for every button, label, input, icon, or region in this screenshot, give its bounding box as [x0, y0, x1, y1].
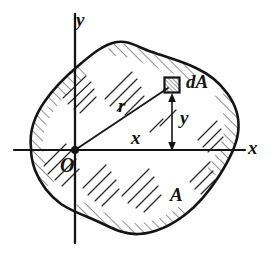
area-label: A — [170, 185, 183, 204]
dA-element-square — [165, 78, 180, 93]
origin-label: O — [60, 155, 74, 175]
y-distance-label: y — [180, 108, 188, 127]
origin-point — [71, 146, 79, 154]
radius-label: r — [118, 96, 125, 115]
x-distance-label: x — [131, 128, 141, 147]
figure-container: y x O r x y dA A — [0, 0, 278, 258]
dA-element-label: dA — [186, 72, 208, 91]
y-axis-label: y — [76, 10, 84, 29]
x-axis-label: x — [248, 138, 258, 157]
